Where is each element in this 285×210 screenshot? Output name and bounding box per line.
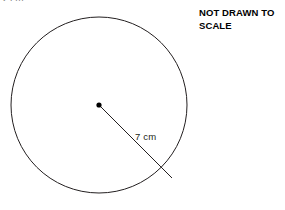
note-line-2: SCALE (199, 19, 283, 32)
center-point-dot (96, 102, 101, 107)
note-line-1: NOT DRAWN TO (199, 6, 283, 19)
diagram-canvas: 2 cm NOT DRAWN TO SCALE 7 cm (0, 0, 285, 210)
not-drawn-to-scale-note: NOT DRAWN TO SCALE (199, 6, 283, 32)
radius-measure-label: 7 cm (135, 131, 156, 142)
